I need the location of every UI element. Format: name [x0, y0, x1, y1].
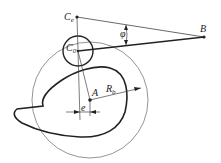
- offset-line: [77, 17, 80, 120]
- point-ce: [75, 15, 78, 18]
- point-c0: [77, 50, 79, 52]
- label-b: B: [200, 23, 206, 34]
- cam-diagram: Ce C0 B φ A Rb e: [0, 0, 221, 163]
- rb-arrow-icon: [134, 87, 141, 91]
- label-phi: φ: [120, 28, 126, 39]
- line-ce-b: [77, 17, 204, 37]
- point-b: [202, 35, 205, 38]
- e-arrow-right-icon: [90, 110, 96, 114]
- label-rb: Rb: [105, 83, 116, 96]
- point-a: [88, 98, 92, 102]
- label-ce: Ce: [64, 11, 74, 24]
- label-e: e: [81, 102, 86, 113]
- line-c0-a: [78, 51, 90, 100]
- label-a: A: [91, 87, 99, 98]
- line-c0-b: [78, 37, 204, 51]
- e-arrow-left-icon: [74, 110, 80, 114]
- cam-profile: [14, 67, 127, 137]
- phi-arrow-bottom-icon: [124, 40, 128, 45]
